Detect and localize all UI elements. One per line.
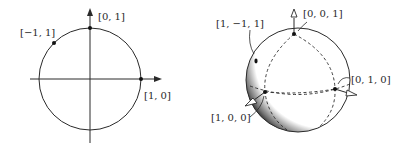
point-0-0-1 [292,32,296,36]
label-0-0-1: [0, 0, 1] [303,8,343,19]
z-axis-arrow-icon [291,9,297,17]
label-1-0: [1, 0] [144,90,171,101]
point-neg1-1 [52,41,56,45]
label-0-1-0: [0, 1, 0] [351,74,391,85]
label-neg1-1: [−1, 1] [20,27,55,38]
y-axis-arrow-icon [87,8,93,16]
diagram-canvas: [0, 1] [1, 0] [−1, 1] [0,0,405,149]
point-1-0 [139,77,143,81]
circle-figure: [0, 1] [1, 0] [−1, 1] [20,8,171,143]
label-1-0-0: [1, 0, 0] [211,112,251,123]
leader-1-neg1-1 [250,30,255,54]
point-1-0-0 [263,90,267,94]
point-1-neg1-1 [254,59,257,64]
sphere-figure: [0, 0, 1] [1, −1, 1] [0, 1, 0] [1, 0, 0] [211,8,391,132]
point-0-1-0 [333,87,337,91]
label-1-neg1-1: [1, −1, 1] [216,18,264,29]
x-axis-arrow-icon [154,76,162,82]
label-0-1: [0, 1] [98,11,125,22]
y-axis-arrow-icon [346,90,357,96]
point-0-1 [88,26,92,30]
